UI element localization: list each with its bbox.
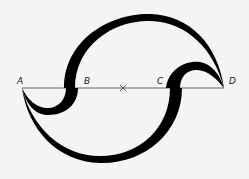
label-a: A (16, 76, 23, 86)
label-b: B (84, 76, 90, 86)
label-d: D (229, 76, 236, 86)
upper-right-hook (166, 62, 224, 88)
label-c: C (157, 76, 164, 86)
lower-large-arc (22, 88, 182, 163)
construction-diagram: A B C D (0, 0, 249, 179)
